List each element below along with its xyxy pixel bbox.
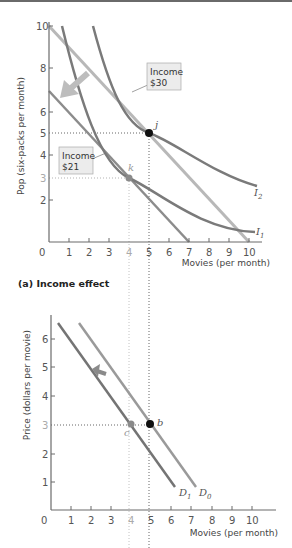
label-b: b — [157, 417, 163, 428]
y-tick-8: 8 — [40, 63, 46, 74]
label-d1: D1 — [178, 487, 192, 501]
panel-b-chart: 6 5 4 3 2 1 0 1 2 3 4 5 6 7 8 9 10 Movie… — [22, 315, 278, 538]
point-b — [146, 420, 154, 428]
x-tick-b-9: 9 — [229, 515, 235, 526]
y-tick-b-5: 5 — [42, 362, 48, 373]
x-tick-10: 10 — [243, 247, 256, 258]
y-axis-title-b: Price (dollars per movie) — [22, 330, 32, 440]
y-tick-6: 6 — [40, 107, 46, 118]
x-tick-b-0: 0 — [41, 515, 47, 526]
panel-a-title: (a) Income effect — [18, 278, 109, 289]
x-tick-2: 2 — [86, 247, 92, 258]
callout-income-30: Income $30 — [132, 63, 184, 92]
point-j — [145, 129, 153, 137]
x-axis-title-b: Movies (per month) — [190, 528, 278, 538]
y-tick-b-2: 2 — [42, 449, 48, 460]
x-tick-8: 8 — [206, 247, 212, 258]
y-tick-b-4: 4 — [42, 391, 48, 402]
x-tick-5: 5 — [146, 247, 152, 258]
label-d0: D0 — [198, 487, 212, 501]
figure-canvas: 10 8 6 5 4 3 2 0 1 2 3 4 5 6 7 8 9 10 Mo… — [0, 0, 292, 548]
x-axis-title-a: Movies (per month) — [182, 258, 270, 268]
x-tick-9: 9 — [226, 247, 232, 258]
label-k: k — [128, 162, 134, 173]
y-axis-title-a: Pop (six-packs per month) — [16, 77, 26, 195]
x-tick-4: 4 — [126, 247, 132, 258]
x-tick-3: 3 — [106, 247, 112, 258]
x-tick-b-2: 2 — [88, 515, 94, 526]
svg-text:Income: Income — [62, 151, 96, 161]
y-tick-4: 4 — [40, 150, 46, 161]
demand-curve-d0 — [79, 323, 196, 487]
indifference-curve-i1 — [62, 26, 255, 232]
x-tick-1: 1 — [66, 247, 72, 258]
x-tick-b-8: 8 — [209, 515, 215, 526]
x-tick-b-1: 1 — [68, 515, 74, 526]
y-tick-b-6: 6 — [42, 334, 48, 345]
x-tick-b-6: 6 — [168, 515, 174, 526]
y-tick-3: 3 — [40, 173, 46, 184]
svg-text:Income: Income — [150, 67, 184, 77]
svg-text:$30: $30 — [150, 78, 167, 88]
x-tick-b-3: 3 — [108, 515, 114, 526]
label-c: c — [124, 427, 130, 438]
label-i1: I1 — [255, 226, 264, 240]
callout-income-21: Income $21 — [59, 147, 106, 174]
y-tick-5: 5 — [40, 128, 46, 139]
x-tick-b-10: 10 — [246, 515, 259, 526]
y-tick-10: 10 — [36, 21, 49, 32]
x-tick-0: 0 — [39, 247, 45, 258]
label-j: j — [153, 119, 158, 130]
demand-curve-d1 — [58, 323, 175, 487]
shift-arrow-icon — [60, 73, 88, 98]
x-tick-7: 7 — [186, 247, 192, 258]
label-i2: I2 — [253, 187, 263, 201]
point-k — [126, 175, 133, 182]
y-tick-b-3: 3 — [42, 420, 48, 431]
svg-text:$21: $21 — [62, 162, 79, 172]
x-tick-6: 6 — [166, 247, 172, 258]
y-tick-2: 2 — [40, 195, 46, 206]
y-tick-b-1: 1 — [42, 477, 48, 488]
x-tick-b-4: 4 — [128, 515, 134, 526]
x-tick-b-5: 5 — [148, 515, 154, 526]
x-tick-b-7: 7 — [188, 515, 194, 526]
